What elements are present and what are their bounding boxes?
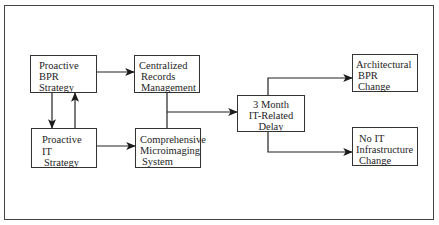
node-label: Comprehensive — [140, 134, 196, 145]
node-no-it-infrastructure-change: No IT Infrastructure Change — [352, 127, 418, 166]
node-label: No IT — [356, 133, 413, 144]
node-label: Change — [356, 81, 413, 92]
node-label: Architectural — [356, 59, 413, 70]
node-label: BPR — [356, 70, 413, 81]
node-label: Strategy — [42, 157, 92, 169]
node-label: Change — [356, 155, 413, 166]
node-proactive-bpr-strategy: Proactive BPR Strategy — [30, 55, 97, 93]
node-comprehensive-microimaging-system: Comprehensive Microimaging System — [135, 128, 201, 168]
node-label: Microimaging — [140, 145, 196, 156]
arrow-delay-to-no-it — [268, 132, 352, 152]
node-label: Infrastructure — [356, 144, 413, 155]
node-label: BPR — [39, 71, 92, 82]
node-label: Proactive — [42, 134, 92, 146]
node-label: Centralized — [139, 60, 195, 71]
node-label: IT-Related — [240, 110, 302, 121]
node-label: Delay — [240, 121, 302, 132]
connectors — [0, 0, 439, 225]
node-label: Management — [139, 82, 195, 93]
node-label: Strategy — [39, 82, 92, 93]
node-architectural-bpr-change: Architectural BPR Change — [352, 54, 418, 92]
arrow-delay-to-architectural — [268, 78, 352, 95]
node-centralized-records-management: Centralized Records Management — [134, 55, 200, 93]
node-label: IT — [42, 146, 92, 158]
node-3-month-it-related-delay: 3 Month IT-Related Delay — [237, 95, 305, 132]
node-label: Proactive — [39, 60, 92, 71]
node-proactive-it-strategy: Proactive IT Strategy — [31, 128, 97, 168]
node-label: Records — [139, 71, 195, 82]
node-label: System — [140, 156, 196, 167]
node-label: 3 Month — [240, 99, 302, 110]
